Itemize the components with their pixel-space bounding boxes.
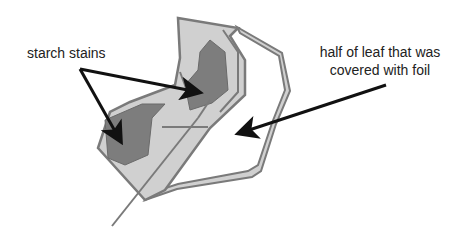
starch-stains-label: starch stains	[27, 44, 106, 62]
arrow-to-left-stain	[80, 69, 120, 140]
arrow-to-foil-half	[240, 85, 386, 133]
foil-half-label-line2: covered with foil	[300, 61, 460, 79]
foil-half-label: half of leaf that was covered with foil	[300, 43, 460, 79]
leaf-starch-diagram	[0, 0, 466, 241]
foil-arrow	[240, 85, 386, 133]
uncovered-half	[98, 18, 245, 200]
foil-half-label-line1: half of leaf that was	[300, 43, 460, 61]
